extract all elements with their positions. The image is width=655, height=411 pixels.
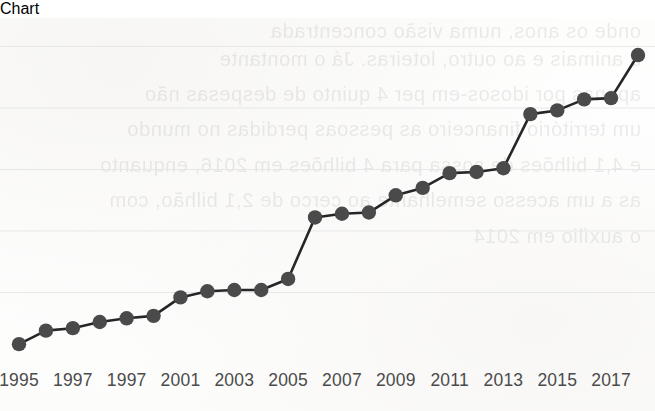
data-point-marker <box>362 205 376 219</box>
data-point-marker <box>416 181 430 195</box>
x-axis-tick-labels: 1995199719972001200320052007200920112013… <box>0 366 655 411</box>
data-point-marker <box>523 107 537 121</box>
data-point-marker <box>200 284 214 298</box>
x-axis-tick-label: 1995 <box>0 370 39 391</box>
data-point-marker <box>335 207 349 221</box>
x-axis-tick-label: 2001 <box>161 370 201 391</box>
data-point-marker <box>496 161 510 175</box>
data-point-marker <box>631 48 645 62</box>
series-line <box>19 55 638 344</box>
data-point-marker <box>469 165 483 179</box>
data-point-marker <box>308 210 322 224</box>
data-point-marker <box>39 323 53 337</box>
data-point-marker <box>550 103 564 117</box>
data-point-marker <box>93 315 107 329</box>
x-axis-tick-label: 2011 <box>430 370 468 391</box>
plot-area <box>0 18 655 366</box>
data-point-marker <box>66 321 80 335</box>
data-point-marker <box>577 92 591 106</box>
x-axis-tick-label: 2007 <box>322 370 362 391</box>
data-point-marker <box>389 188 403 202</box>
x-axis-tick-label: 2013 <box>484 370 524 391</box>
data-point-marker <box>254 283 268 297</box>
x-axis-tick-label: 1997 <box>53 370 93 391</box>
data-point-marker <box>146 309 160 323</box>
x-axis-tick-label: 2003 <box>214 370 254 391</box>
series-markers <box>12 48 645 352</box>
data-point-marker <box>227 283 241 297</box>
gridlines <box>0 46 655 292</box>
data-point-marker <box>442 166 456 180</box>
data-point-marker <box>173 290 187 304</box>
x-axis-tick-label: 2017 <box>591 370 631 391</box>
data-point-marker <box>604 91 618 105</box>
data-point-marker <box>281 272 295 286</box>
x-axis-tick-label: 2015 <box>537 370 577 391</box>
x-axis-tick-label: 2005 <box>268 370 308 391</box>
data-point-marker <box>12 337 26 351</box>
x-axis-tick-label: 1997 <box>107 370 147 391</box>
chart-page: onde os anos, numa visão concentrada a a… <box>0 18 655 411</box>
line-chart <box>0 18 655 366</box>
x-axis-tick-label: 2009 <box>376 370 416 391</box>
data-point-marker <box>119 311 133 325</box>
